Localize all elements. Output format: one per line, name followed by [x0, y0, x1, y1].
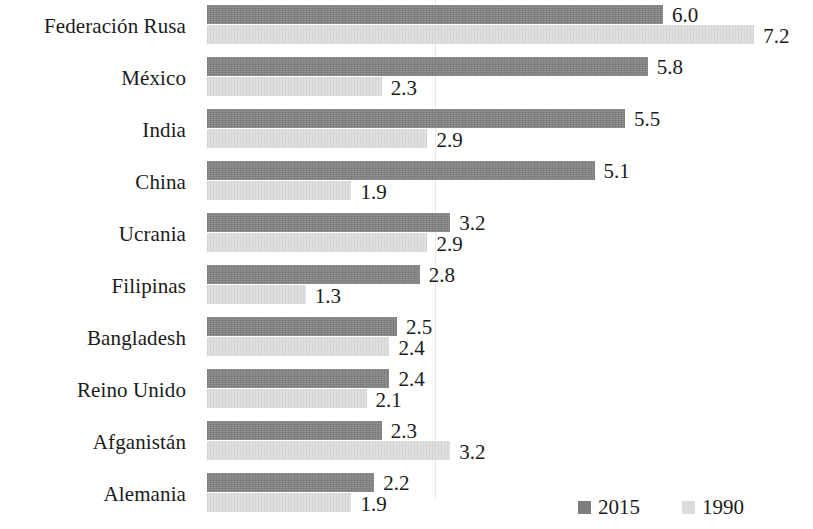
- bar-2015: [207, 5, 663, 24]
- bar-value-1990: 2.4: [398, 338, 424, 359]
- bar-2015: [207, 265, 420, 284]
- bar-2015: [207, 213, 450, 232]
- category-row: México5.82.3: [0, 52, 813, 104]
- bar-group: 2.52.4: [207, 312, 813, 364]
- bar-2015: [207, 473, 374, 492]
- bar-2015: [207, 161, 595, 180]
- bar-group: 6.07.2: [207, 0, 813, 52]
- bar-1990: [207, 285, 306, 304]
- category-row: Filipinas2.81.3: [0, 260, 813, 312]
- bar-group: 2.81.3: [207, 260, 813, 312]
- category-label-india: India: [0, 104, 186, 156]
- legend-swatch-icon: [682, 501, 695, 514]
- bar-chart: Federación Rusa6.07.2México5.82.3India5.…: [0, 0, 813, 529]
- category-row: Ucrania3.22.9: [0, 208, 813, 260]
- category-label-m-xico: México: [0, 52, 186, 104]
- bar-1990: [207, 129, 427, 148]
- bar-2015: [207, 317, 397, 336]
- category-label-federaci-n-rusa: Federación Rusa: [0, 0, 186, 52]
- plot-area: Federación Rusa6.07.2México5.82.3India5.…: [0, 0, 813, 529]
- bar-group: 5.82.3: [207, 52, 813, 104]
- bar-value-1990: 1.3: [315, 286, 341, 307]
- bar-group: 3.22.9: [207, 208, 813, 260]
- bar-1990: [207, 441, 450, 460]
- bar-1990: [207, 493, 351, 512]
- bar-2015: [207, 369, 389, 388]
- category-label-filipinas: Filipinas: [0, 260, 186, 312]
- category-row: Reino Unido2.42.1: [0, 364, 813, 416]
- bar-value-1990: 2.9: [436, 130, 462, 151]
- category-row: India5.52.9: [0, 104, 813, 156]
- legend-item-1990[interactable]: 1990: [682, 497, 744, 518]
- legend-swatch-icon: [578, 501, 591, 514]
- bar-value-2015: 6.0: [672, 5, 698, 26]
- category-label-china: China: [0, 156, 186, 208]
- category-row: Bangladesh2.52.4: [0, 312, 813, 364]
- bar-1990: [207, 181, 351, 200]
- bar-group: 5.11.9: [207, 156, 813, 208]
- bar-1990: [207, 233, 427, 252]
- bar-1990: [207, 389, 367, 408]
- bar-value-2015: 5.8: [657, 57, 683, 78]
- category-row: China5.11.9: [0, 156, 813, 208]
- bar-group: 2.42.1: [207, 364, 813, 416]
- category-label-ucrania: Ucrania: [0, 208, 186, 260]
- bar-value-2015: 2.3: [391, 421, 417, 442]
- category-label-reino-unido: Reino Unido: [0, 364, 186, 416]
- bar-value-2015: 5.1: [604, 161, 630, 182]
- bar-value-2015: 3.2: [459, 213, 485, 234]
- bar-value-2015: 5.5: [634, 109, 660, 130]
- bar-value-2015: 2.4: [398, 369, 424, 390]
- bar-value-2015: 2.2: [383, 473, 409, 494]
- bar-value-2015: 2.8: [429, 265, 455, 286]
- bar-value-1990: 1.9: [360, 182, 386, 203]
- bar-value-1990: 2.9: [436, 234, 462, 255]
- bar-1990: [207, 337, 389, 356]
- bar-group: 5.52.9: [207, 104, 813, 156]
- bar-2015: [207, 57, 648, 76]
- category-label-bangladesh: Bangladesh: [0, 312, 186, 364]
- bar-value-1990: 2.1: [376, 390, 402, 411]
- category-label-afganist-n: Afganistán: [0, 416, 186, 468]
- bar-group: 2.33.2: [207, 416, 813, 468]
- bar-value-2015: 2.5: [406, 317, 432, 338]
- bar-2015: [207, 421, 382, 440]
- bar-value-1990: 1.9: [360, 494, 386, 515]
- category-row: Afganistán2.33.2: [0, 416, 813, 468]
- legend-label: 1990: [702, 497, 744, 518]
- legend-label: 2015: [598, 497, 640, 518]
- category-label-alemania: Alemania: [0, 468, 186, 520]
- chart-legend: 20151990: [578, 497, 744, 518]
- bar-2015: [207, 109, 625, 128]
- bar-value-1990: 2.3: [391, 78, 417, 99]
- category-row: Federación Rusa6.07.2: [0, 0, 813, 52]
- bar-1990: [207, 77, 382, 96]
- bar-1990: [207, 25, 754, 44]
- bar-value-1990: 7.2: [763, 26, 789, 47]
- bar-value-1990: 3.2: [459, 442, 485, 463]
- legend-item-2015[interactable]: 2015: [578, 497, 640, 518]
